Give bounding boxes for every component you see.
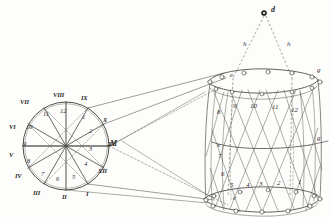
circle-number-11: 11 xyxy=(43,111,49,118)
rim-label-e: e xyxy=(230,72,233,79)
basket-number-1: 1 xyxy=(298,179,302,186)
basket-number-9: 9 xyxy=(233,103,237,110)
roman-numeral-II: II xyxy=(62,194,67,201)
circle-number-9: 9 xyxy=(23,141,26,148)
roman-numeral-VII: VII xyxy=(20,99,29,106)
roman-numeral-IV: IV xyxy=(15,173,21,180)
circle-number-4: 4 xyxy=(84,161,87,168)
circle-number-5: 5 xyxy=(72,174,75,181)
circle-number-8: 8 xyxy=(27,158,30,165)
roman-numeral-VIII: VIII xyxy=(53,92,64,99)
roman-numeral-X: X xyxy=(103,117,107,124)
apex-label-d: d xyxy=(271,6,275,14)
basket-number-3: 3 xyxy=(259,181,263,188)
circle-number-1: 1 xyxy=(82,114,85,121)
circle-number-3: 3 xyxy=(89,146,92,153)
side-label-g-top: g xyxy=(317,67,321,74)
circle-number-6: 6 xyxy=(56,176,59,183)
cross-label-x: x xyxy=(217,142,220,149)
basket-number-5: 5 xyxy=(230,182,234,189)
vertex-label-M: M xyxy=(110,140,117,148)
dashed-label-h-left: h xyxy=(243,41,247,48)
dashed-label-h-right: h xyxy=(287,41,291,48)
basket-number-8: 8 xyxy=(217,109,221,116)
basket-number-12: 12 xyxy=(291,107,298,114)
basket-number-10: 10 xyxy=(250,103,257,110)
basket-number-2: 2 xyxy=(277,180,281,187)
apex-point-d-highlight xyxy=(263,12,265,14)
circle-number-2: 2 xyxy=(89,128,92,135)
roman-numeral-III: III xyxy=(33,190,40,197)
rim-label-c: c xyxy=(233,195,236,202)
basket-number-11: 11 xyxy=(272,104,278,111)
roman-numeral-V: V xyxy=(9,152,13,159)
basket-number-6: 6 xyxy=(221,171,225,178)
basket-number-4: 4 xyxy=(246,182,250,189)
circle-number-7: 7 xyxy=(41,171,44,178)
circle-number-10: 10 xyxy=(26,124,33,131)
circle-number-12: 12 xyxy=(60,108,67,115)
basket-number-7: 7 xyxy=(218,153,222,160)
roman-numeral-VI: VI xyxy=(9,124,15,131)
side-label-g-mid: g xyxy=(317,135,321,142)
roman-numeral-IX: IX xyxy=(81,95,87,102)
roman-numeral-I: I xyxy=(86,191,88,198)
roman-numeral-XII: XII xyxy=(98,168,107,175)
